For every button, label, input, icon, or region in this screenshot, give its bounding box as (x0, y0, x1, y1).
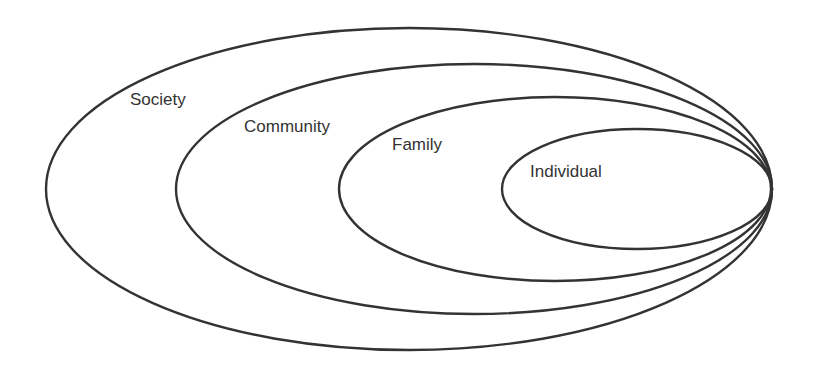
family-ellipse (339, 97, 771, 281)
individual-ellipse (502, 129, 772, 249)
individual-label: Individual (530, 162, 602, 181)
society-label: Society (130, 90, 186, 109)
family-label: Family (392, 135, 443, 154)
nested-ellipse-diagram: Society Community Family Individual (0, 0, 814, 366)
community-ellipse (176, 64, 772, 314)
community-label: Community (244, 117, 330, 136)
society-ellipse (46, 28, 772, 350)
